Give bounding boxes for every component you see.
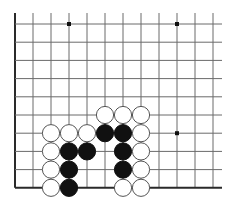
- white-stone[interactable]: [132, 125, 149, 142]
- star-point-icon: [175, 131, 179, 135]
- star-point-icon: [67, 22, 71, 26]
- go-board: [0, 0, 236, 215]
- stones-layer: [42, 106, 149, 196]
- white-stone[interactable]: [42, 161, 59, 178]
- white-stone[interactable]: [78, 125, 95, 142]
- white-stone[interactable]: [96, 106, 113, 123]
- white-stone[interactable]: [42, 179, 59, 196]
- black-stone[interactable]: [114, 125, 131, 142]
- black-stone[interactable]: [60, 179, 77, 196]
- black-stone[interactable]: [114, 143, 131, 160]
- white-stone[interactable]: [42, 143, 59, 160]
- white-stone[interactable]: [42, 125, 59, 142]
- star-point-icon: [175, 22, 179, 26]
- white-stone[interactable]: [114, 179, 131, 196]
- black-stone[interactable]: [78, 143, 95, 160]
- white-stone[interactable]: [132, 106, 149, 123]
- white-stone[interactable]: [132, 179, 149, 196]
- black-stone[interactable]: [60, 143, 77, 160]
- white-stone[interactable]: [132, 161, 149, 178]
- board-grid: [15, 13, 222, 188]
- white-stone[interactable]: [114, 106, 131, 123]
- black-stone[interactable]: [114, 161, 131, 178]
- black-stone[interactable]: [96, 125, 113, 142]
- white-stone[interactable]: [132, 143, 149, 160]
- white-stone[interactable]: [60, 125, 77, 142]
- black-stone[interactable]: [60, 161, 77, 178]
